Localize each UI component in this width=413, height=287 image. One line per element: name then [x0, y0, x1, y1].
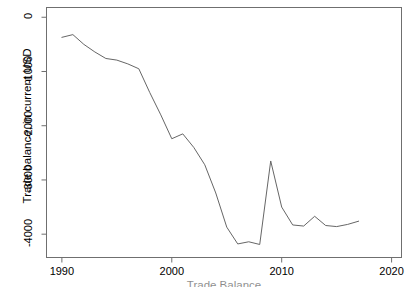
y-tick-label: -4000: [22, 212, 34, 254]
x-axis-title: Trade Balance: [46, 279, 402, 287]
x-tick-label: 2000: [152, 265, 192, 277]
y-tick-label: -3000: [22, 158, 34, 200]
x-tick-label: 2020: [372, 265, 412, 277]
y-tick-label: 0: [22, 0, 34, 37]
y-tick-label: -2000: [22, 104, 34, 146]
x-axis-ticks: [62, 258, 392, 263]
x-tick-label: 2010: [262, 265, 302, 277]
chart-container: Trade balance, in current USD Trade Bala…: [0, 0, 413, 287]
y-tick-label: -1000: [22, 49, 34, 91]
y-axis-ticks: [42, 17, 47, 234]
line-chart-plot: [0, 0, 413, 287]
trade-balance-line: [62, 35, 359, 245]
x-tick-label: 1990: [42, 265, 82, 277]
